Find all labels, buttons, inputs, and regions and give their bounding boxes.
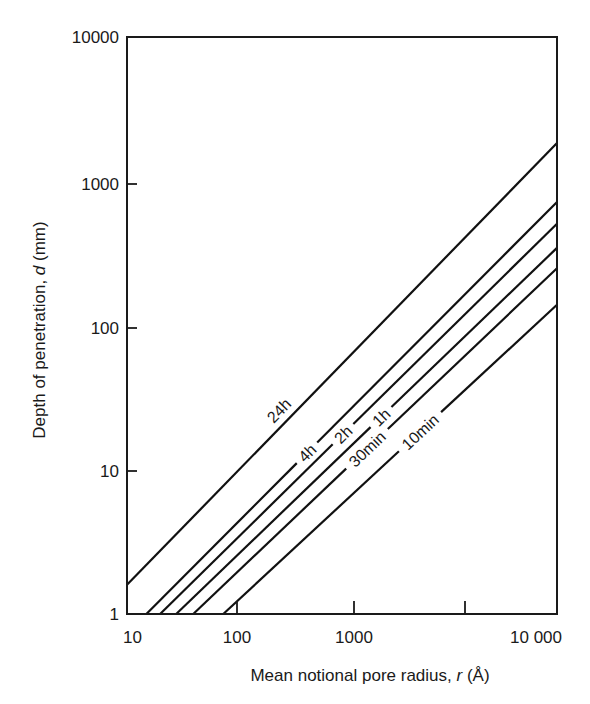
plot-frame	[127, 37, 557, 614]
series-lines	[127, 143, 557, 614]
x-tick-label: 10	[123, 628, 142, 647]
series-line-2h	[353, 224, 557, 424]
series-line-2h	[160, 444, 333, 614]
y-tick-label: 100	[91, 319, 119, 338]
x-axis-title: Mean notional pore radius, r (Å)	[250, 666, 489, 685]
x-tick-label: 10 000	[510, 628, 562, 647]
series-label-24h: 24h	[264, 395, 295, 426]
series-line-4h	[317, 202, 557, 443]
log-log-chart: 24h4h2h1h30min10min 110100100010000 1010…	[0, 0, 590, 704]
x-axis-ticks: 10100100010 000	[123, 601, 562, 647]
series-label-10min: 10min	[399, 411, 443, 453]
x-tick-label: 100	[223, 628, 251, 647]
y-tick-label: 10000	[72, 28, 119, 47]
series-line-1h	[176, 427, 370, 614]
x-tick-label: 1000	[335, 628, 373, 647]
y-tick-label: 1	[110, 605, 119, 624]
y-axis-title: Depth of penetration, d (mm)	[30, 221, 49, 438]
series-line-4h	[146, 463, 296, 614]
y-tick-label: 1000	[81, 175, 119, 194]
y-tick-label: 10	[100, 462, 119, 481]
series-line-30min	[388, 268, 557, 429]
series-line-10min	[223, 451, 399, 614]
